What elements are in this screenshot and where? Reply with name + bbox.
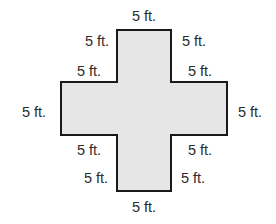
label-lower-left-stem: 5 ft. [84, 171, 108, 186]
label-left-arm-bottom: 5 ft. [77, 143, 101, 158]
label-upper-left-stem: 5 ft. [85, 34, 109, 49]
label-lower-right-stem: 5 ft. [181, 171, 205, 186]
label-bottom: 5 ft. [132, 200, 156, 215]
label-right-arm-bottom: 5 ft. [188, 143, 212, 158]
plus-shape [61, 30, 227, 191]
label-upper-right-stem: 5 ft. [182, 34, 206, 49]
label-top: 5 ft. [132, 9, 156, 24]
label-right-end: 5 ft. [238, 105, 262, 120]
label-left-end: 5 ft. [22, 105, 46, 120]
label-right-arm-top: 5 ft. [188, 64, 212, 79]
label-left-arm-top: 5 ft. [77, 64, 101, 79]
plus-shape-diagram: 5 ft. 5 ft. 5 ft. 5 ft. 5 ft. 5 ft. 5 ft… [0, 0, 276, 224]
